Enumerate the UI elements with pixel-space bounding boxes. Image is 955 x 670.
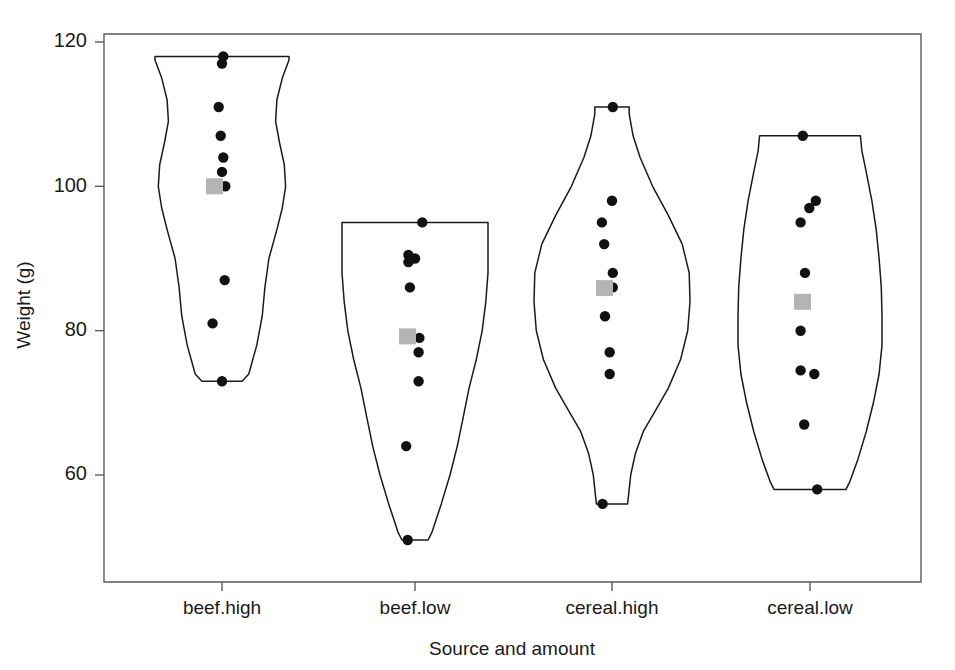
y-axis-tick-label: 120 <box>54 29 87 51</box>
data-point <box>809 369 819 379</box>
data-point <box>599 239 609 249</box>
mean-marker <box>399 328 416 344</box>
mean-marker <box>596 280 613 296</box>
data-points-layer <box>207 51 822 545</box>
data-point <box>795 365 805 375</box>
data-point <box>597 499 607 509</box>
data-point <box>405 282 415 292</box>
plot-canvas: 6080100120beef.highbeef.lowcereal.highce… <box>0 0 955 670</box>
x-axis-tick-label: beef.high <box>183 597 261 618</box>
data-point <box>798 131 808 141</box>
data-point <box>217 58 227 68</box>
data-point <box>812 484 822 494</box>
data-point <box>600 311 610 321</box>
data-point <box>795 217 805 227</box>
data-point <box>605 347 615 357</box>
data-point <box>413 347 423 357</box>
data-point <box>403 257 413 267</box>
mean-marker <box>794 294 811 310</box>
violin-shape <box>534 107 690 504</box>
y-axis-tick-label: 60 <box>65 462 87 484</box>
data-point <box>799 419 809 429</box>
violins-layer <box>155 56 882 540</box>
data-point <box>216 131 226 141</box>
data-point <box>218 152 228 162</box>
data-point <box>417 217 427 227</box>
data-point <box>220 275 230 285</box>
x-axis-title: Source and amount <box>429 638 596 659</box>
data-point <box>207 318 217 328</box>
data-point <box>795 326 805 336</box>
mean-marker <box>206 178 223 194</box>
data-point <box>608 102 618 112</box>
data-point <box>214 102 224 112</box>
data-point <box>800 268 810 278</box>
data-point <box>413 376 423 386</box>
y-axis-tick-label: 100 <box>54 174 87 196</box>
data-point <box>608 268 618 278</box>
data-point <box>804 203 814 213</box>
data-point <box>401 441 411 451</box>
data-point <box>597 217 607 227</box>
mean-markers-layer <box>206 178 811 344</box>
x-axis-tick-label: beef.low <box>380 597 451 618</box>
y-axis-title: Weight (g) <box>13 261 34 348</box>
data-point <box>403 535 413 545</box>
data-point <box>217 167 227 177</box>
data-point <box>217 376 227 386</box>
x-axis-tick-label: cereal.high <box>566 597 659 618</box>
violin-shape <box>738 136 882 490</box>
violin-plot-figure: 6080100120beef.highbeef.lowcereal.highce… <box>0 0 955 670</box>
y-axis-tick-label: 80 <box>65 318 87 340</box>
data-point <box>605 369 615 379</box>
data-point <box>607 196 617 206</box>
x-axis-tick-label: cereal.low <box>767 597 853 618</box>
